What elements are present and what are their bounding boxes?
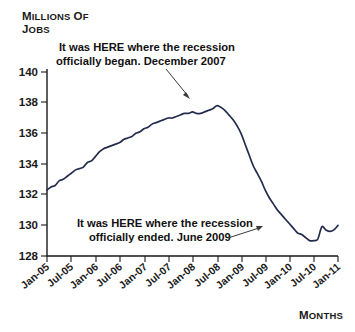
xtick-label: Jan-11 [310,260,343,290]
annotation-end-arrowhead [256,226,263,231]
xtick-label: Jan-05 [18,260,51,291]
xtick-label: Jan-06 [67,260,100,291]
ytick-label: 130 [19,219,38,231]
annotation-recession-start: It was HERE where the recession official… [56,41,235,99]
xtick-label: Jan-07 [116,260,149,291]
ytick-label: 128 [19,250,39,262]
ytick-label: 134 [19,158,39,170]
ytick-label: 136 [19,127,38,139]
annotation-end-leader [228,228,259,238]
ytick-label: 138 [19,96,39,108]
x-axis-labels: Jan-05 Jul-05 Jan-06 Jul-06 Jan-07 Jul-0… [18,260,342,291]
ytick-label: 140 [19,66,38,78]
jobs-line-chart: MILLIONS OF JOBS 140 138 136 134 132 130… [0,0,355,332]
annotation-start-line1: It was HERE where the recession [59,41,235,53]
annotation-end-line1: It was HERE where the recession [77,217,253,229]
y-axis-title-line1: MILLIONS OF [22,10,89,22]
annotation-recession-end: It was HERE where the recession official… [77,217,263,243]
x-axis-title: MONTHS [299,309,343,321]
chart-canvas: MILLIONS OF JOBS 140 138 136 134 132 130… [0,0,355,332]
annotation-start-arrowhead [183,92,190,99]
annotation-start-leader [166,69,188,96]
ytick-label: 132 [19,188,38,200]
annotation-start-line2: officially began. December 2007 [56,55,226,67]
y-axis-ticks: 140 138 136 134 132 130 128 [19,66,47,262]
annotation-end-line2: officially ended. June 2009 [89,231,231,243]
y-axis-title-line2: JOBS [22,23,50,35]
